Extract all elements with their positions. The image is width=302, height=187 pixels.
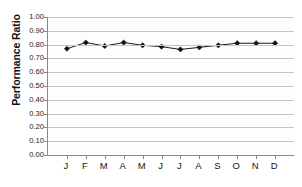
x-axis-tick-mark — [256, 155, 257, 159]
y-axis-tick-label: 0.30 — [18, 110, 44, 118]
gridline — [48, 127, 294, 128]
y-axis-tick-label: 0.50 — [18, 82, 44, 90]
gridline — [48, 100, 294, 101]
x-axis-tick-mark — [237, 155, 238, 159]
x-axis-tick-label: J — [56, 160, 76, 172]
y-axis-tick-mark — [44, 127, 48, 128]
x-axis-tick-mark — [275, 155, 276, 159]
x-axis-tick-mark — [67, 155, 68, 159]
y-axis-tick-label: 1.00 — [18, 13, 44, 21]
x-axis-tick-mark — [143, 155, 144, 159]
y-axis-tick-label: 0.60 — [18, 68, 44, 76]
gridline — [48, 17, 294, 18]
gridline — [48, 58, 294, 59]
performance-ratio-line-chart: Performance Ratio 1.000.900.800.700.600.… — [0, 0, 302, 187]
x-axis-tick-mark — [162, 155, 163, 159]
x-axis-tick-mark — [86, 155, 87, 159]
data-line — [67, 43, 275, 50]
x-axis-tick-mark — [180, 155, 181, 159]
y-axis-tick-label: 0.10 — [18, 137, 44, 145]
y-axis-tick-mark — [44, 58, 48, 59]
y-axis-tick-mark — [44, 86, 48, 87]
y-axis-tick-mark — [44, 17, 48, 18]
y-axis-tick-label: 0.20 — [18, 123, 44, 131]
y-axis-tick-mark — [44, 155, 48, 156]
y-axis-tick-mark — [44, 100, 48, 101]
gridline — [48, 141, 294, 142]
x-axis-tick-mark — [199, 155, 200, 159]
x-axis-tick-label: O — [226, 160, 246, 172]
gridline — [48, 72, 294, 73]
y-axis-tick-label: 0.70 — [18, 54, 44, 62]
x-axis-tick-mark — [124, 155, 125, 159]
x-axis-tick-label: F — [75, 160, 95, 172]
y-axis-tick-label: 0.00 — [18, 151, 44, 159]
x-axis-tick-label: N — [245, 160, 265, 172]
x-axis-tick-label: A — [113, 160, 133, 172]
y-axis-tick-mark — [44, 31, 48, 32]
y-axis-tick-label: 0.40 — [18, 96, 44, 104]
x-axis-tick-labels: JFMAMJJASOND — [47, 160, 294, 180]
gridline — [48, 31, 294, 32]
x-axis-tick-mark — [218, 155, 219, 159]
x-axis-tick-label: M — [94, 160, 114, 172]
x-axis-tick-label: J — [169, 160, 189, 172]
x-axis-tick-label: S — [207, 160, 227, 172]
y-axis-tick-mark — [44, 141, 48, 142]
y-axis-tick-label: 0.80 — [18, 41, 44, 49]
x-axis-tick-mark — [105, 155, 106, 159]
gridline — [48, 114, 294, 115]
x-axis-tick-label: J — [151, 160, 171, 172]
gridline — [48, 45, 294, 46]
x-axis-tick-label: M — [132, 160, 152, 172]
y-axis-tick-mark — [44, 72, 48, 73]
x-axis-tick-label: D — [264, 160, 284, 172]
x-axis-tick-label: A — [188, 160, 208, 172]
y-axis-tick-label: 0.90 — [18, 27, 44, 35]
plot-area — [47, 17, 294, 156]
y-axis-tick-mark — [44, 114, 48, 115]
y-axis-tick-mark — [44, 45, 48, 46]
gridline — [48, 86, 294, 87]
data-point-marker — [178, 47, 183, 52]
y-axis-tick-labels: 1.000.900.800.700.600.500.400.300.200.10… — [18, 12, 44, 160]
data-point-marker — [64, 46, 69, 51]
